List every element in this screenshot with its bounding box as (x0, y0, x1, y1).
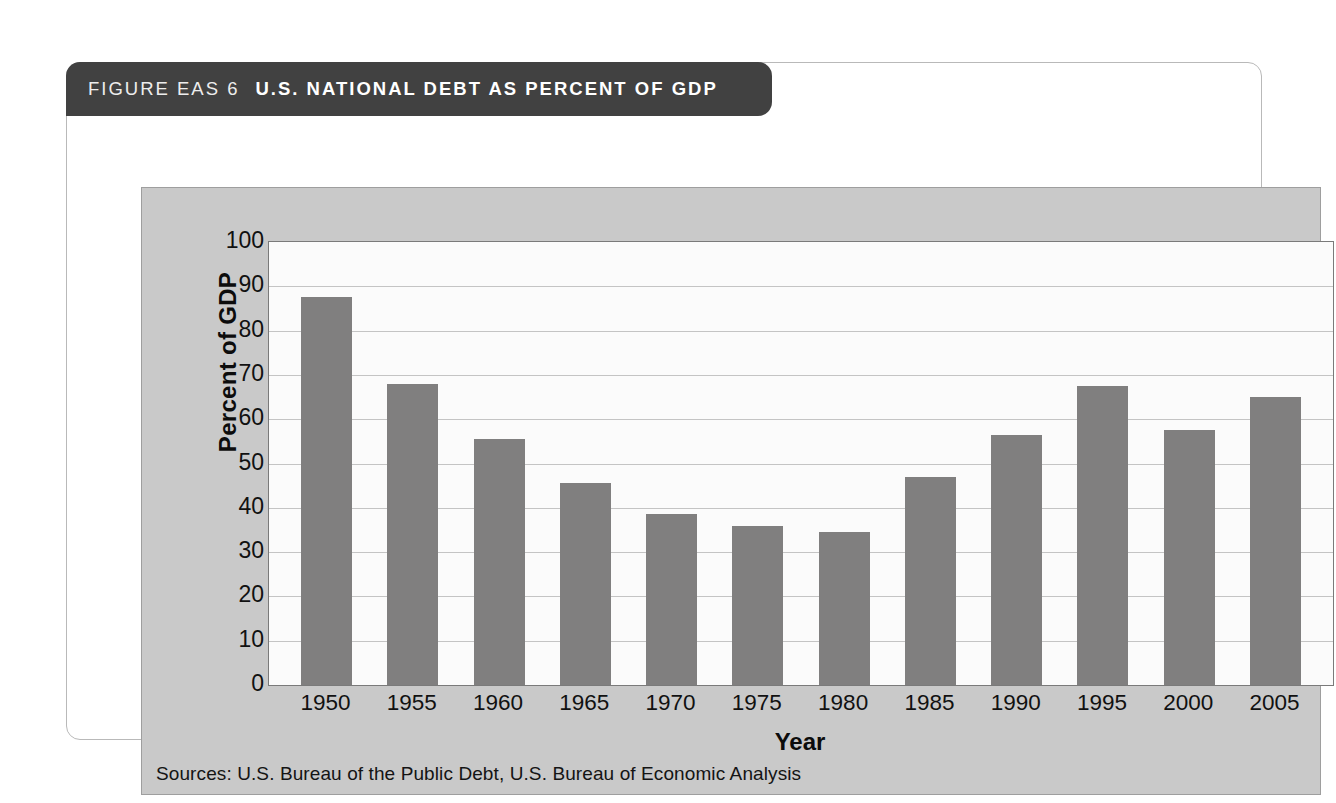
x-tick-label: 1950 (281, 690, 371, 716)
bar-1955 (387, 384, 438, 685)
bar-2000 (1164, 430, 1215, 685)
figure-number-label: FIGURE EAS 6 (88, 78, 239, 100)
x-tick-label: 2005 (1230, 690, 1320, 716)
x-tick-label: 1985 (884, 690, 974, 716)
bar-1960 (474, 439, 525, 685)
bar-2005 (1250, 397, 1301, 685)
x-tick-label: 1990 (971, 690, 1061, 716)
y-tick-label: 100 (208, 229, 264, 252)
y-tick-label: 40 (208, 495, 264, 518)
y-tick-label: 20 (208, 583, 264, 606)
x-tick-label: 1980 (798, 690, 888, 716)
y-tick-label: 80 (208, 318, 264, 341)
figure-card: Percent of GDP 100 90 80 70 60 50 40 30 … (66, 62, 1262, 740)
y-tick-label: 70 (208, 362, 264, 385)
y-tick-label: 50 (208, 451, 264, 474)
bar-1995 (1077, 386, 1128, 685)
figure-title: U.S. NATIONAL DEBT AS PERCENT OF GDP (255, 78, 717, 100)
bar-1980 (819, 532, 870, 685)
source-note: Sources: U.S. Bureau of the Public Debt,… (156, 763, 801, 785)
plot-area (268, 241, 1334, 686)
bar-1985 (905, 477, 956, 685)
bar-chart: Percent of GDP 100 90 80 70 60 50 40 30 … (142, 188, 1320, 794)
y-tick-label: 60 (208, 406, 264, 429)
bar-1965 (560, 483, 611, 685)
x-tick-label: 1995 (1057, 690, 1147, 716)
x-tick-label: 1965 (539, 690, 629, 716)
x-tick-label: 1960 (453, 690, 543, 716)
x-axis-title: Year (268, 728, 1332, 756)
bars-layer (269, 242, 1333, 685)
y-tick-label: 90 (208, 273, 264, 296)
y-tick-label: 10 (208, 628, 264, 651)
bar-1970 (646, 514, 697, 685)
y-tick-label: 0 (208, 672, 264, 695)
x-axis-ticks: 1950195519601965197019751980198519901995… (268, 690, 1332, 724)
x-tick-label: 1975 (712, 690, 802, 716)
bar-1950 (301, 297, 352, 685)
bar-1990 (991, 435, 1042, 685)
y-tick-label: 30 (208, 539, 264, 562)
x-tick-label: 2000 (1143, 690, 1233, 716)
x-tick-label: 1970 (626, 690, 716, 716)
y-axis-ticks: 100 90 80 70 60 50 40 30 20 10 0 (202, 241, 264, 684)
x-tick-label: 1955 (367, 690, 457, 716)
figure-body-panel: Percent of GDP 100 90 80 70 60 50 40 30 … (141, 187, 1321, 795)
bar-1975 (732, 526, 783, 685)
figure-title-band: FIGURE EAS 6 U.S. NATIONAL DEBT AS PERCE… (66, 62, 772, 116)
